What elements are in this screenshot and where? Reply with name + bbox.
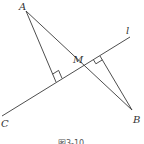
perpendicular-from-A xyxy=(26,11,56,82)
point-label-A: A xyxy=(18,1,26,12)
point-label-B: B xyxy=(132,114,140,125)
line-label-l: l xyxy=(126,25,129,36)
figure-caption: 图3-10 xyxy=(58,139,84,144)
geometry-figure: A M l C B 图3-10 xyxy=(0,0,144,144)
perpendicular-from-B xyxy=(100,56,132,110)
point-label-M: M xyxy=(72,54,84,65)
point-label-C: C xyxy=(1,118,9,129)
right-angle-mark-B xyxy=(94,60,103,64)
